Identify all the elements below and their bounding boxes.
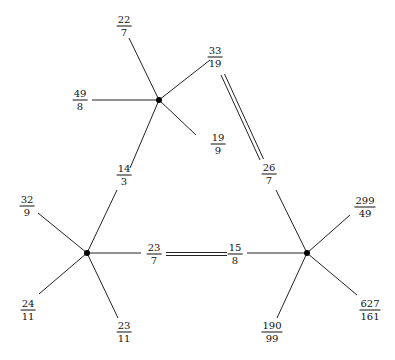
edge-left-32-9 (38, 213, 87, 253)
label-23-11: 2311 (117, 321, 132, 344)
label-15-8: 158 (228, 243, 243, 266)
edge-top-22-7 (129, 38, 159, 100)
label-627-161: 627161 (359, 299, 380, 322)
label-24-11: 2411 (21, 299, 36, 322)
edge-top-19-9 (159, 100, 196, 135)
edge-top-33-19 (159, 60, 210, 100)
node-right (304, 250, 310, 256)
label-22-7: 227 (117, 15, 132, 38)
graph-edges (0, 0, 395, 360)
edge-right-26-7 (276, 190, 307, 253)
edge-top-14-3 (130, 100, 159, 168)
label-299-49: 29949 (354, 196, 375, 219)
label-33-19: 3319 (208, 46, 223, 69)
label-19-9: 199 (211, 133, 226, 156)
edge-right-190-99 (277, 253, 307, 318)
edge-right-299-49 (307, 215, 350, 253)
double-edge-a1 (221, 75, 260, 160)
double-edge-a2 (225, 74, 264, 159)
label-190-99: 19099 (261, 321, 282, 344)
label-32-9: 329 (20, 195, 35, 218)
edge-right-627-161 (307, 253, 357, 295)
node-top (156, 97, 162, 103)
edge-left-24-11 (39, 253, 87, 294)
label-14-3: 143 (117, 164, 132, 187)
edge-left-23-11 (87, 253, 118, 318)
label-26-7: 267 (262, 163, 277, 186)
edge-left-14-3 (87, 190, 117, 253)
label-23-7: 237 (147, 243, 162, 266)
graph-diagram: 227 3319 498 199 143 267 329 2411 2311 2… (0, 0, 395, 360)
node-left (84, 250, 90, 256)
label-49-8: 498 (73, 89, 88, 112)
